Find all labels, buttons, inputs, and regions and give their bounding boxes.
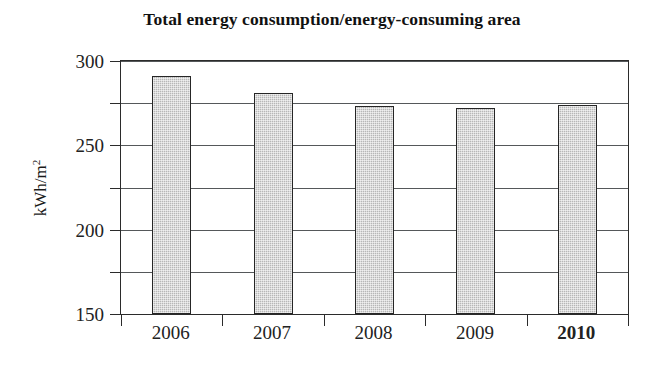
- x-axis-tick: [425, 314, 426, 326]
- chart-figure: Total energy consumption/energy-consumin…: [0, 0, 664, 378]
- y-axis-tick: 300: [110, 61, 121, 62]
- y-axis-tick: 200: [110, 145, 121, 146]
- y-axis-title-exponent: 2: [29, 159, 41, 165]
- y-axis-tick: 50: [110, 272, 121, 273]
- x-axis-tick: [628, 314, 629, 326]
- bar: [254, 93, 293, 314]
- bar: [456, 108, 495, 314]
- bar: [355, 106, 394, 314]
- y-axis-tick-label: 300: [76, 51, 105, 73]
- y-axis-tick: 150: [110, 188, 121, 189]
- y-axis-tick: 0: [110, 314, 121, 315]
- x-axis-tick-label: 2009: [456, 322, 494, 344]
- bar: [152, 76, 191, 314]
- y-axis-tick-label: 250: [76, 135, 105, 157]
- x-axis-tick-label: 2007: [253, 322, 291, 344]
- y-axis-tick: 100: [110, 230, 121, 231]
- y-axis-title: kWh/m2: [26, 60, 56, 315]
- y-axis-tick: 250: [110, 103, 121, 104]
- bar: [558, 105, 597, 314]
- x-axis-tick-label: 2010: [557, 322, 595, 344]
- plot-area: 050100150200250300: [120, 60, 629, 315]
- gridline: [121, 103, 628, 104]
- x-axis-tick-label: 2006: [152, 322, 190, 344]
- y-axis-tick-label: 150: [76, 304, 105, 326]
- x-axis-tick: [222, 314, 223, 326]
- x-axis-tick-label: 2008: [355, 322, 393, 344]
- x-axis-tick: [121, 314, 122, 326]
- chart-title: Total energy consumption/energy-consumin…: [0, 9, 664, 30]
- y-axis-tick-label: 200: [76, 220, 105, 242]
- y-axis-title-text: kWh/m2: [31, 159, 51, 216]
- y-axis-title-base: kWh/m: [31, 165, 50, 216]
- x-axis-tick: [527, 314, 528, 326]
- gridline: [121, 61, 628, 62]
- x-axis-tick: [324, 314, 325, 326]
